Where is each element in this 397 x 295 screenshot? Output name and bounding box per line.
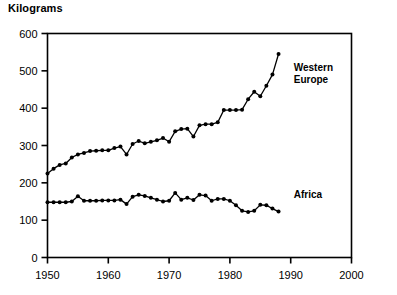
data-point-marker [94,199,98,203]
series-label-africa: Africa [294,189,323,200]
data-point-marker [125,152,129,156]
data-point-marker [185,196,189,200]
data-point-marker [216,197,220,201]
data-point-marker [240,108,244,112]
data-point-marker [210,199,214,203]
data-point-marker [234,203,238,207]
data-point-marker [100,148,104,152]
line-chart-plot: 0100200300400500600 19501960197019801990… [0,0,397,295]
data-point-marker [191,198,195,202]
series-africa [46,191,281,214]
series-label-line: Western [294,62,333,73]
data-point-marker [106,198,110,202]
data-point-marker [234,108,238,112]
y-tick-label: 100 [19,214,37,226]
data-point-marker [46,200,50,204]
data-point-marker [131,142,135,146]
y-tick-label: 0 [31,252,37,264]
data-point-marker [76,194,80,198]
data-point-marker [258,203,262,207]
data-point-marker [204,194,208,198]
data-point-marker [155,138,159,142]
data-point-marker [277,52,281,56]
data-point-marker [161,200,165,204]
y-tick-label: 600 [19,28,37,40]
chart-container: Kilograms 0100200300400500600 1950196019… [0,0,397,295]
data-point-marker [191,135,195,139]
data-point-marker [149,140,153,144]
data-point-marker [173,129,177,133]
data-point-marker [125,202,129,206]
y-tick-label: 300 [19,140,37,152]
data-point-marker [167,199,171,203]
x-tick-label: 2000 [339,269,363,281]
data-point-marker [264,84,268,88]
data-point-marker [246,210,250,214]
x-tick-label: 1960 [96,269,120,281]
y-tick-label: 200 [19,177,37,189]
data-point-marker [143,141,147,145]
data-point-marker [64,161,68,165]
series-label-line: Africa [294,189,323,200]
data-point-marker [264,203,268,207]
data-point-marker [64,200,68,204]
data-point-marker [270,207,274,211]
data-point-marker [228,199,232,203]
data-point-marker [222,108,226,112]
y-tick-label: 400 [19,102,37,114]
data-point-marker [210,122,214,126]
data-point-marker [143,194,147,198]
data-point-marker [252,90,256,94]
data-point-marker [155,198,159,202]
data-point-marker [222,197,226,201]
x-tick-label: 1970 [157,269,181,281]
data-point-marker [70,200,74,204]
data-point-marker [149,196,153,200]
data-point-marker [270,73,274,77]
series-western-europe [46,52,281,175]
series-line [48,54,279,173]
data-point-marker [118,198,122,202]
data-point-marker [46,172,50,176]
data-point-marker [173,191,177,195]
data-point-marker [137,139,141,143]
data-point-marker [82,199,86,203]
data-point-marker [131,195,135,199]
data-point-marker [76,152,80,156]
data-point-marker [82,151,86,155]
series-label-line: Europe [294,74,329,85]
data-point-marker [179,127,183,131]
data-point-marker [112,198,116,202]
series-layer [46,52,281,214]
data-point-marker [58,163,62,167]
data-point-marker [252,209,256,213]
data-point-marker [246,97,250,101]
data-point-marker [179,198,183,202]
data-point-marker [258,94,262,98]
data-point-marker [58,200,62,204]
data-point-marker [204,122,208,126]
data-point-marker [216,120,220,124]
data-point-marker [167,140,171,144]
data-point-marker [228,108,232,112]
data-point-marker [94,149,98,153]
data-point-marker [112,146,116,150]
y-tick-label: 500 [19,65,37,77]
x-axis: 195019601970198019902000 [35,258,363,281]
y-axis: 0100200300400500600 [19,28,47,264]
data-point-marker [70,155,74,159]
data-point-marker [137,193,141,197]
data-point-marker [88,199,92,203]
data-point-marker [185,127,189,131]
data-point-marker [161,136,165,140]
series-label-western-europe: WesternEurope [294,62,333,85]
data-point-marker [52,200,56,204]
series-annotations: WesternEuropeAfrica [294,62,333,200]
data-point-marker [198,123,202,127]
data-point-marker [106,148,110,152]
data-point-marker [198,193,202,197]
x-tick-label: 1980 [218,269,242,281]
data-point-marker [118,145,122,149]
data-point-marker [100,198,104,202]
data-point-marker [277,210,281,214]
